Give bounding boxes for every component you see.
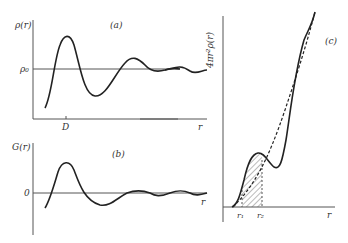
panel-b: G(r) (b) 0 r [12,67,207,235]
xlabel-b: r [201,197,206,207]
panel-a: ρ(r) (a) ρ₀ D r [14,20,203,132]
ylabel-c: 4πr²ρ(r) [205,31,215,69]
xlabel-a: r [198,122,203,132]
panel-label-c: (c) [325,36,338,46]
rho-curve [45,36,180,108]
panel-label-a: (a) [110,20,123,30]
rho-curve-tail [165,67,207,73]
ylabel-a: ρ(r) [14,20,32,30]
rho0-label: ρ₀ [19,64,29,74]
r2-label: r₂ [257,211,264,220]
rdf-curve [232,12,315,207]
d-label: D [61,122,69,132]
g-curve [45,163,207,208]
panel-label-b: (b) [112,149,125,159]
shaded-region [242,154,262,207]
figure: ρ(r) (a) ρ₀ D r G(r) (b) 0 r 4πr²ρ(r) (c… [0,0,348,243]
zero-label: 0 [24,188,30,198]
xlabel-c: r [327,210,332,220]
ylabel-b: G(r) [12,142,31,152]
r1-label: r₁ [237,211,244,220]
panel-c: 4πr²ρ(r) (c) r₁ r₂ r [205,12,338,222]
